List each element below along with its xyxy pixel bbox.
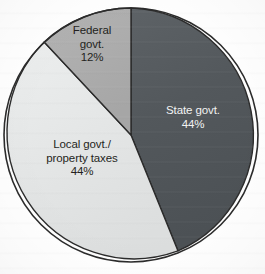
pie-chart-svg [0,0,265,274]
pie-chart-figure: Federal govt. 12% State govt. 44% Local … [0,0,265,274]
cropped-caption-remnant [0,265,265,274]
